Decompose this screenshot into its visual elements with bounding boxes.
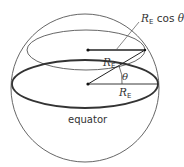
sphere-outline <box>11 14 159 162</box>
latitude-point-dot <box>144 49 146 51</box>
label-theta: θ <box>122 71 128 82</box>
label-re-cos-theta: RE cos θ <box>140 12 184 26</box>
label-equator: equator <box>68 114 108 125</box>
latitude-center-dot <box>86 48 89 51</box>
label-equator-radius: RE <box>118 86 131 100</box>
center-dot <box>86 82 89 85</box>
label-slanted-radius: RE <box>102 56 115 70</box>
sphere-latitude-diagram: RE cos θ RE θ RE equator <box>0 0 184 167</box>
label-leader-line <box>116 22 139 50</box>
